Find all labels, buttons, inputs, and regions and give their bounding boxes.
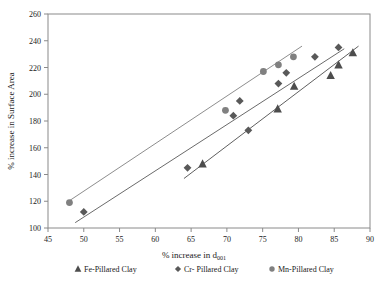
y-tick-label: 140 xyxy=(29,171,41,180)
data-point-cr-pillared-clay xyxy=(236,97,244,105)
data-point-mn-pillared-clay xyxy=(222,107,229,114)
x-tick-label: 70 xyxy=(223,235,231,244)
y-tick-label: 160 xyxy=(29,144,41,153)
chart-canvas: 45505560657075808590 1001201401601802002… xyxy=(0,0,388,293)
legend-item-mn-pillared-clay: Mn-Pillared Clay xyxy=(269,265,333,274)
data-point-mn-pillared-clay xyxy=(290,53,297,60)
legend-item-cr-pillared-clay: Cr- Pillared Clay xyxy=(175,265,239,274)
data-point-fe-pillared-clay xyxy=(198,159,206,167)
y-tick-label: 200 xyxy=(29,90,41,99)
x-tick-label: 80 xyxy=(294,235,302,244)
plot-area-frame xyxy=(48,14,370,228)
data-point-cr-pillared-clay xyxy=(184,164,192,172)
x-tick-label: 45 xyxy=(44,235,52,244)
y-tick-label: 100 xyxy=(29,224,41,233)
x-tick-label: 85 xyxy=(330,235,338,244)
x-tick-label: 90 xyxy=(366,235,374,244)
legend-marker-triangle-icon xyxy=(75,265,82,271)
y-tick-label: 120 xyxy=(29,197,41,206)
trendlines-group xyxy=(67,46,359,223)
trendline-fe-pillared-clay xyxy=(184,46,359,178)
legend-item-fe-pillared-clay: Fe-Pillared Clay xyxy=(75,265,137,274)
y-axis-title: % increase in Surface Area xyxy=(6,72,16,169)
legend-label: Fe-Pillared Clay xyxy=(84,265,137,274)
x-tick-label: 50 xyxy=(80,235,88,244)
data-point-mn-pillared-clay xyxy=(66,199,73,206)
y-tick-label: 260 xyxy=(29,10,41,19)
series-mn-pillared-clay xyxy=(66,53,297,206)
data-points-group xyxy=(66,44,357,216)
legend-marker-diamond-icon xyxy=(175,266,181,272)
data-point-mn-pillared-clay xyxy=(260,68,267,75)
data-point-cr-pillared-clay xyxy=(274,80,282,88)
trendline-mn-pillared-clay xyxy=(67,46,302,202)
x-axis-ticks xyxy=(48,228,370,232)
y-axis-tick-labels: 100120140160180200220240260 xyxy=(29,10,41,233)
scatter-chart-figure: 45505560657075808590 1001201401601802002… xyxy=(0,0,388,293)
data-point-cr-pillared-clay xyxy=(311,53,319,61)
x-tick-label: 60 xyxy=(151,235,159,244)
x-tick-label: 75 xyxy=(259,235,267,244)
y-axis-ticks xyxy=(44,14,48,228)
x-tick-label: 55 xyxy=(116,235,124,244)
trendline-cr-pillared-clay xyxy=(75,49,344,223)
data-point-cr-pillared-clay xyxy=(80,208,88,216)
y-tick-label: 180 xyxy=(29,117,41,126)
data-point-fe-pillared-clay xyxy=(334,60,342,68)
x-axis-tick-labels: 45505560657075808590 xyxy=(44,235,374,244)
y-tick-label: 220 xyxy=(29,64,41,73)
legend-marker-circle-icon xyxy=(269,266,274,271)
legend-label: Cr- Pillared Clay xyxy=(184,265,239,274)
data-point-fe-pillared-clay xyxy=(326,71,334,79)
legend-label: Mn-Pillared Clay xyxy=(278,265,334,274)
x-tick-label: 65 xyxy=(187,235,195,244)
x-axis-title: % increase in d001 xyxy=(162,250,226,261)
data-point-cr-pillared-clay xyxy=(282,69,290,77)
chart-legend: Fe-Pillared ClayCr- Pillared ClayMn-Pill… xyxy=(75,265,334,274)
series-cr-pillared-clay xyxy=(80,44,343,216)
data-point-mn-pillared-clay xyxy=(275,61,282,68)
y-tick-label: 240 xyxy=(29,37,41,46)
